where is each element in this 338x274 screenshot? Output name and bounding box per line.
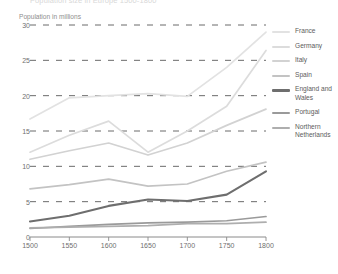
legend-item[interactable]: Spain bbox=[272, 71, 336, 79]
y-axis-tick-label: 25 bbox=[14, 57, 30, 64]
y-axis-tick-label: 15 bbox=[14, 128, 30, 135]
legend-label: Germany bbox=[295, 42, 322, 50]
y-axis-tick-label: 30 bbox=[14, 22, 30, 29]
legend-label: Italy bbox=[295, 56, 307, 64]
chart-container: Population size in Europe 1500-1800 Popu… bbox=[0, 0, 338, 274]
series-line bbox=[30, 50, 266, 152]
chart-title: Population size in Europe 1500-1800 bbox=[30, 0, 157, 5]
legend-item[interactable]: France bbox=[272, 27, 336, 35]
legend-label: France bbox=[295, 27, 316, 35]
legend-item[interactable]: Italy bbox=[272, 56, 336, 64]
y-axis-label: Population in millions bbox=[19, 13, 81, 20]
legend-item[interactable]: England and Wales bbox=[272, 85, 336, 101]
plot-area bbox=[30, 25, 266, 237]
x-axis-tick-label: 1700 bbox=[180, 242, 196, 249]
legend-swatch-icon bbox=[272, 89, 290, 92]
series-line bbox=[30, 32, 266, 119]
data-lines bbox=[30, 32, 266, 228]
legend-item[interactable]: Portugal bbox=[272, 108, 336, 116]
legend-swatch-icon bbox=[272, 75, 290, 77]
legend-item[interactable]: Northern Netherlands bbox=[272, 123, 336, 139]
series-line bbox=[30, 171, 266, 221]
y-axis-tick-label: 10 bbox=[14, 163, 30, 170]
legend-label: Northern Netherlands bbox=[295, 123, 336, 139]
legend-label: Portugal bbox=[295, 108, 320, 116]
y-axis-tick-label: 5 bbox=[14, 198, 30, 205]
x-axis-tick-label: 1750 bbox=[219, 242, 235, 249]
legend-swatch-icon bbox=[272, 46, 290, 48]
y-axis-tick-label: 0 bbox=[14, 234, 30, 241]
legend-swatch-icon bbox=[272, 31, 290, 33]
chart-legend: FranceGermanyItalySpainEngland and Wales… bbox=[272, 27, 336, 146]
legend-swatch-icon bbox=[272, 112, 290, 114]
x-axis-tick-label: 1550 bbox=[62, 242, 78, 249]
legend-label: Spain bbox=[295, 71, 312, 79]
legend-label: England and Wales bbox=[295, 85, 336, 101]
legend-item[interactable]: Germany bbox=[272, 42, 336, 50]
x-axis-tick-label: 1600 bbox=[101, 242, 117, 249]
legend-swatch-icon bbox=[272, 127, 290, 129]
legend-swatch-icon bbox=[272, 60, 290, 62]
chart-svg bbox=[30, 25, 266, 237]
x-axis-tick-label: 1800 bbox=[258, 242, 274, 249]
gridlines bbox=[30, 25, 266, 202]
x-axis-tick-label: 1500 bbox=[22, 242, 38, 249]
x-axis-tick-label: 1650 bbox=[140, 242, 156, 249]
y-axis-tick-label: 20 bbox=[14, 92, 30, 99]
axis-lines bbox=[30, 237, 266, 241]
